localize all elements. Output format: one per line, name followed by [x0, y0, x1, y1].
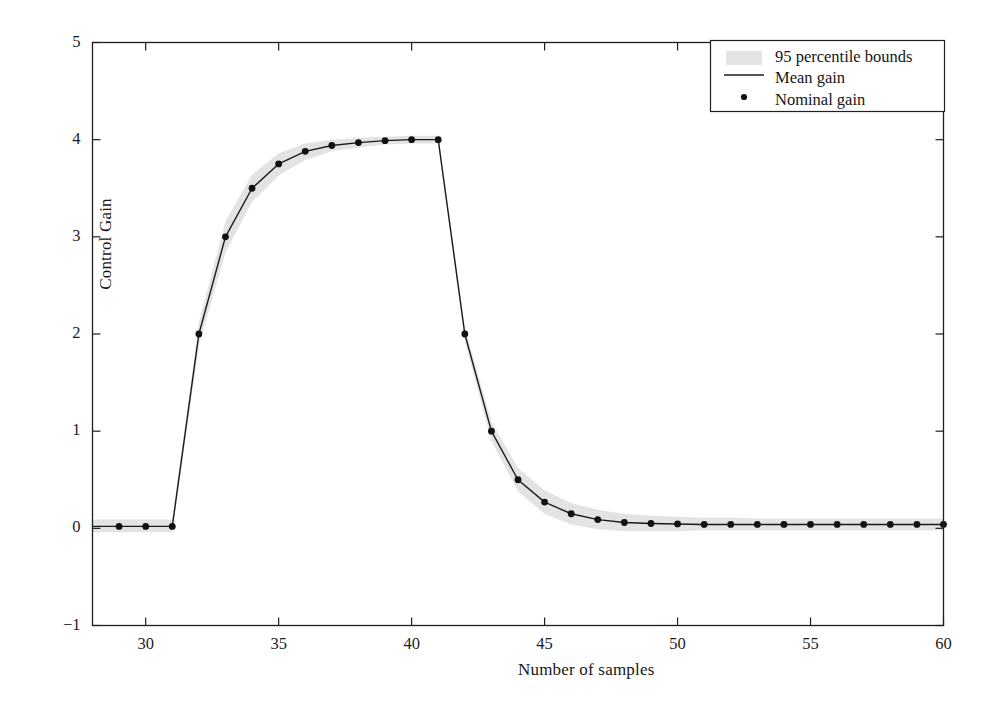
nominal-gain-point [302, 148, 309, 155]
nominal-gain-point [382, 137, 389, 144]
nominal-gain-point [169, 523, 176, 530]
nominal-gain-point [488, 428, 495, 435]
y-tick-label: 5 [41, 32, 81, 52]
legend-item-percentile-bounds: 95 percentile bounds [775, 47, 912, 67]
nominal-gain-point [887, 521, 894, 528]
nominal-gain-point [914, 521, 921, 528]
nominal-gain-point [408, 136, 415, 143]
axis-ticks [93, 43, 944, 626]
x-tick-label: 50 [656, 634, 700, 654]
x-tick-label: 55 [789, 634, 833, 654]
nominal-gain-point [515, 476, 522, 483]
legend-dot-swatch [741, 94, 747, 100]
x-tick-label: 60 [922, 634, 966, 654]
y-tick-label: −1 [41, 615, 81, 635]
legend-band-swatch [726, 51, 762, 65]
nominal-gain-point [195, 331, 202, 338]
nominal-gain-point [275, 161, 282, 168]
nominal-gain-point [781, 521, 788, 528]
nominal-gain-point [807, 521, 814, 528]
nominal-gain-point [142, 523, 149, 530]
nominal-gain-point [568, 510, 575, 517]
nominal-gain-point [674, 521, 681, 528]
nominal-gain-point [541, 499, 548, 506]
y-tick-label: 4 [41, 129, 81, 149]
y-tick-label: 0 [41, 517, 81, 537]
nominal-gain-point [727, 521, 734, 528]
legend-item-mean-gain: Mean gain [775, 68, 845, 88]
y-tick-label: 1 [41, 420, 81, 440]
nominal-gain-point [648, 520, 655, 527]
nominal-gain-point [222, 233, 229, 240]
nominal-gain-point [116, 523, 123, 530]
nominal-gain-point [355, 139, 362, 146]
percentile-band [93, 136, 944, 532]
axes-frame [93, 43, 944, 626]
legend-item-nominal-gain: Nominal gain [775, 90, 865, 110]
x-tick-label: 30 [124, 634, 168, 654]
nominal-gain-point [754, 521, 761, 528]
nominal-gain-point [834, 521, 841, 528]
y-tick-label: 3 [41, 226, 81, 246]
y-axis-label: Control Gain [96, 198, 116, 290]
nominal-gain-point [328, 142, 335, 149]
x-tick-label: 40 [390, 634, 434, 654]
nominal-gain-point [701, 521, 708, 528]
nominal-gain-point [594, 516, 601, 523]
x-tick-label: 45 [523, 634, 567, 654]
nominal-gain-point [249, 185, 256, 192]
y-axis-label-wrapper: Control Gain [96, 144, 120, 344]
figure-canvas: Control Gain Number of samples 303540455… [0, 0, 982, 714]
nominal-gain-point [435, 136, 442, 143]
nominal-gain-point [860, 521, 867, 528]
x-tick-label: 35 [257, 634, 301, 654]
nominal-gain-point [461, 331, 468, 338]
nominal-gain-point [621, 519, 628, 526]
x-axis-label: Number of samples [518, 660, 655, 680]
y-tick-label: 2 [41, 323, 81, 343]
